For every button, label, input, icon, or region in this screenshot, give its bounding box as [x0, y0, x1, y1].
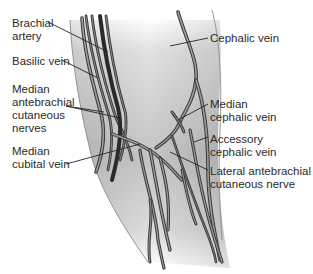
label-median-cubital-vein: Median cubital vein: [12, 145, 70, 171]
label-median-cephalic-vein: Median cephalic vein: [210, 98, 276, 124]
label-cephalic-vein: Cephalic vein: [210, 32, 279, 45]
label-basilic-vein: Basilic vein: [12, 55, 70, 68]
label-brachial-artery: Brachial artery: [12, 17, 54, 43]
label-median-antebrachial-cutaneous-nerves: Median antebrachial cutaneous nerves: [12, 83, 75, 135]
label-accessory-cephalic-vein: Accessory cephalic vein: [210, 133, 276, 159]
anatomy-diagram: Brachial artery Basilic vein Median ante…: [0, 0, 313, 274]
label-lateral-antebrachial-cutaneous-nerve: Lateral antebrachial cutaneous nerve: [210, 165, 311, 191]
